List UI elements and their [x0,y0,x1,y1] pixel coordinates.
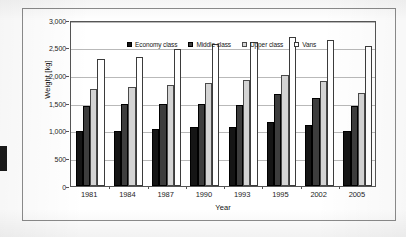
bar [274,94,281,186]
legend-swatch-icon [188,42,193,47]
bar [174,49,181,186]
bar [250,42,257,186]
bar [83,106,90,186]
x-axis-tick-label: 2005 [337,190,377,199]
y-axis-tick-mark [66,21,69,22]
bar [167,85,174,186]
chart-figure-frame: Weight [kg] 05001,0001,5002,0002,5003,00… [22,8,396,221]
x-axis-tick-labels: 19811984198719901993199520022005 [70,190,376,202]
bar [198,104,205,186]
legend-entry: Economy class [127,41,177,48]
scan-edge-artifact [0,146,7,171]
y-axis-tick-mark [66,76,69,77]
x-axis-tick-label: 1984 [107,190,147,199]
bar [358,93,365,186]
x-axis-tick-mark [262,186,263,189]
bar [320,81,327,186]
bar [121,104,128,186]
bar [90,89,97,186]
plot-area: Economy classMiddle classUpper classVans [70,21,376,187]
bar [281,75,288,186]
bar [190,127,197,186]
legend-label: Upper class [250,41,283,48]
bar [365,46,372,186]
bar [327,40,334,186]
x-axis-tick-mark [301,186,302,189]
bar [152,129,159,186]
bar [343,131,350,186]
y-axis-tick-label: 3,000 [49,18,66,25]
y-axis-tick-label: 2,000 [49,73,66,80]
bar [267,122,274,186]
x-axis-tick-label: 1981 [69,190,109,199]
y-axis-tick-mark [66,104,69,105]
gridline [71,22,375,23]
x-axis-title: Year [70,203,376,212]
bar [236,105,243,186]
y-axis-tick-labels: 05001,0001,5002,0002,5003,000 [23,21,66,187]
legend-entry: Upper class [242,41,283,48]
legend-swatch-icon [294,42,299,47]
legend-entry: Vans [294,41,316,48]
x-axis-tick-label: 1987 [146,190,186,199]
legend-label: Vans [302,41,316,48]
y-axis-tick-label: 2,500 [49,45,66,52]
x-axis-tick-mark [186,186,187,189]
y-axis-tick-label: 500 [55,156,66,163]
legend-entry: Middle class [188,41,231,48]
x-axis-tick-label: 2002 [299,190,339,199]
legend-swatch-icon [127,42,132,47]
y-axis-tick-mark [66,48,69,49]
bar [76,131,83,186]
x-axis-tick-mark [109,186,110,189]
bar [351,106,358,186]
y-axis-tick-label: 1,000 [49,128,66,135]
bar [212,44,219,186]
bar [305,125,312,186]
bar [229,127,236,186]
y-axis-tick-mark [66,159,69,160]
x-axis-tick-mark [339,186,340,189]
bar [159,104,166,186]
bar [312,98,319,186]
bar [289,37,296,186]
x-axis-tick-label: 1990 [184,190,224,199]
legend-swatch-icon [242,42,247,47]
bar [136,57,143,186]
legend-label: Middle class [196,41,231,48]
bar [128,87,135,186]
y-axis-tick-mark [66,131,69,132]
bar [114,131,121,186]
y-axis-tick-label: 1,500 [49,101,66,108]
legend-label: Economy class [135,41,177,48]
x-axis-tick-mark [148,186,149,189]
bar [205,83,212,186]
bar [97,59,104,186]
scanned-page: Weight [kg] 05001,0001,5002,0002,5003,00… [0,0,406,237]
chart-legend: Economy classMiddle classUpper classVans [127,39,316,49]
bar [243,80,250,186]
x-axis-tick-label: 1993 [222,190,262,199]
x-axis-tick-mark [224,186,225,189]
y-axis-tick-mark [66,187,69,188]
x-axis-tick-label: 1995 [260,190,300,199]
